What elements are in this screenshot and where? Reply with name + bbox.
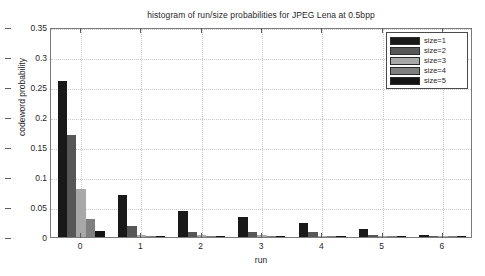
bar (178, 211, 187, 237)
bar (188, 232, 197, 237)
bar (86, 219, 95, 237)
legend-item: size=5 (390, 76, 464, 85)
legend-item: size=3 (390, 56, 464, 65)
y-tick-label: 0.3 (7, 53, 47, 63)
x-tick-label: 6 (427, 241, 457, 251)
bar (419, 235, 428, 237)
bar (308, 232, 317, 237)
bar (429, 236, 438, 237)
bar (206, 236, 215, 237)
x-tick-mark-top (321, 28, 322, 33)
x-tick-mark-bottom (321, 233, 322, 238)
y-tick-label: 0.05 (7, 203, 47, 213)
bar (359, 229, 368, 237)
bar (76, 189, 85, 237)
y-tick-label: 0.1 (7, 173, 47, 183)
bar (327, 236, 336, 237)
x-tick-label: 0 (65, 241, 95, 251)
bar (58, 81, 67, 237)
figure-canvas: histogram of run/size probabilities for … (0, 0, 485, 276)
bar (448, 236, 457, 237)
x-tick-label: 3 (246, 241, 276, 251)
y-axis-label: codeword probability (17, 37, 27, 157)
legend-swatch (390, 77, 420, 85)
bar (118, 195, 127, 237)
legend-label: size=1 (424, 36, 446, 45)
x-tick-mark-bottom (140, 233, 141, 238)
bar (127, 226, 136, 237)
x-tick-label: 4 (306, 241, 336, 251)
y-tick-label: 0.25 (7, 83, 47, 93)
x-tick-label: 2 (186, 241, 216, 251)
x-tick-mark-bottom (442, 233, 443, 238)
legend-label: size=5 (424, 76, 446, 85)
bar (156, 236, 165, 237)
x-tick-mark-bottom (201, 233, 202, 238)
legend-swatch (390, 37, 420, 45)
legend-swatch (390, 57, 420, 65)
bar (95, 231, 104, 237)
bar (216, 236, 225, 237)
bar (336, 236, 345, 237)
x-tick-label: 5 (367, 241, 397, 251)
legend-swatch (390, 47, 420, 55)
legend-label: size=4 (424, 66, 446, 75)
bar (276, 236, 285, 237)
bar (457, 236, 466, 237)
x-tick-mark-bottom (80, 233, 81, 238)
y-tick-label: 0 (7, 233, 47, 243)
bar (387, 236, 396, 237)
legend-item: size=2 (390, 46, 464, 55)
bar (238, 217, 247, 237)
bar (248, 232, 257, 237)
x-tick-mark-top (140, 28, 141, 33)
y-tick-label: 0.2 (7, 113, 47, 123)
bar (368, 235, 377, 237)
legend-item: size=4 (390, 66, 464, 75)
x-tick-mark-top (80, 28, 81, 33)
y-tick-label: 0.15 (7, 143, 47, 153)
x-tick-mark-bottom (261, 233, 262, 238)
x-tick-mark-top (261, 28, 262, 33)
bar (67, 135, 76, 237)
legend-label: size=2 (424, 46, 446, 55)
legend-item: size=1 (390, 36, 464, 45)
x-tick-mark-top (382, 28, 383, 33)
x-tick-mark-top (201, 28, 202, 33)
bar (267, 236, 276, 237)
x-tick-mark-bottom (382, 233, 383, 238)
legend-swatch (390, 67, 420, 75)
bar (299, 223, 308, 237)
bar (397, 236, 406, 237)
x-axis-label: run (50, 255, 472, 265)
bar (146, 236, 155, 237)
legend: size=1size=2size=3size=4size=5 (386, 32, 468, 89)
page-title: histogram of run/size probabilities for … (50, 10, 472, 20)
x-tick-label: 1 (125, 241, 155, 251)
legend-label: size=3 (424, 56, 446, 65)
y-tick-label: 0.35 (7, 23, 47, 33)
